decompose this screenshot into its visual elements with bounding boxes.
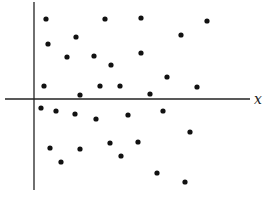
data-point: [72, 111, 77, 116]
data-point: [204, 18, 209, 23]
data-point: [107, 140, 112, 145]
data-point: [58, 159, 63, 164]
data-point: [125, 112, 130, 117]
data-point: [135, 139, 140, 144]
data-point: [117, 83, 122, 88]
data-point: [187, 129, 192, 134]
data-point: [45, 41, 50, 46]
data-point: [154, 170, 159, 175]
data-point: [108, 62, 113, 67]
data-point: [43, 16, 48, 21]
scatter-plot: x: [0, 0, 270, 204]
data-point: [164, 74, 169, 79]
data-point: [41, 83, 46, 88]
data-point: [118, 153, 123, 158]
data-point: [93, 116, 98, 121]
data-point: [138, 50, 143, 55]
data-point: [38, 105, 43, 110]
data-point: [182, 179, 187, 184]
data-point: [160, 108, 165, 113]
data-point: [77, 146, 82, 151]
data-point: [73, 34, 78, 39]
data-point: [178, 32, 183, 37]
data-point: [77, 92, 82, 97]
data-point: [91, 53, 96, 58]
data-point: [147, 91, 152, 96]
x-axis-label: x: [254, 91, 262, 107]
data-point: [53, 108, 58, 113]
data-point: [64, 54, 69, 59]
data-point: [194, 84, 199, 89]
data-point: [47, 145, 52, 150]
data-points: [38, 15, 209, 184]
data-point: [97, 83, 102, 88]
data-point: [138, 15, 143, 20]
data-point: [102, 16, 107, 21]
